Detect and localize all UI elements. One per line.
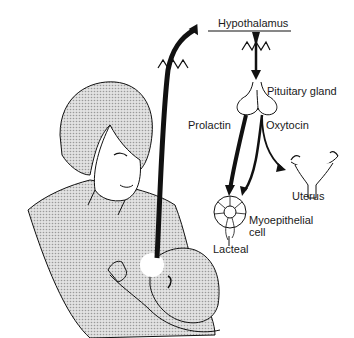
illustration (0, 0, 354, 338)
diagram-canvas: Hypothalamus Pituitary gland Prolactin O… (0, 0, 354, 338)
label-uterus: Uterus (292, 190, 324, 202)
alveolus-shape (214, 196, 246, 246)
oxytocin-to-alveolus-arrow (245, 115, 262, 190)
label-prolactin: Prolactin (188, 119, 231, 131)
prolactin-arrow (230, 115, 246, 190)
label-myoepithelial: Myoepithelial (249, 214, 313, 226)
label-cell: cell (249, 226, 266, 238)
label-hypothalamus: Hypothalamus (218, 17, 288, 29)
label-lacteal: Lacteal (213, 243, 248, 255)
impulse-zigzag-icon (158, 60, 188, 68)
label-pituitary-gland: Pituitary gland (267, 85, 337, 97)
nipple-highlight (140, 253, 164, 277)
label-oxytocin: Oxytocin (266, 119, 309, 131)
